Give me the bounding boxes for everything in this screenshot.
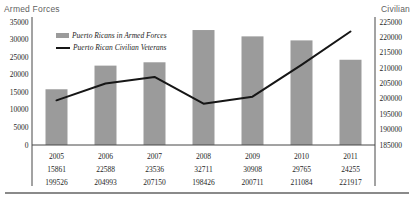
- right-axis-tick: 205000: [380, 79, 403, 88]
- right-axis-tick: 200000: [380, 94, 403, 103]
- category-label: 2009: [245, 152, 260, 161]
- right-axis-tick: 225000: [380, 18, 403, 27]
- line-value-label: 211084: [290, 178, 312, 187]
- right-axis-tick: 190000: [380, 125, 403, 134]
- line-value-label: 221917: [339, 178, 362, 187]
- bottom-divider: [5, 192, 409, 194]
- legend-item-armed-forces: Puerto Ricans in Armed Forces: [56, 31, 167, 40]
- line-value-label: 204993: [94, 178, 117, 187]
- bar-value-label: 15861: [47, 165, 66, 174]
- left-axis-tick: 25000: [10, 53, 29, 62]
- legend-label-civilian-veterans: Puerto Rican Civilian Veterans: [73, 43, 167, 52]
- legend: Puerto Ricans in Armed Forces Puerto Ric…: [56, 31, 167, 52]
- bar-value-label: 23536: [145, 165, 164, 174]
- category-label: 2006: [98, 152, 113, 161]
- line-value-label: 207150: [143, 178, 166, 187]
- left-axis-tick: 5000: [14, 123, 29, 132]
- right-axis-tick: 195000: [380, 110, 403, 119]
- right-axis-tick: 185000: [380, 141, 403, 150]
- category-label: 2005: [49, 152, 64, 161]
- bar-series-swatch-icon: [56, 33, 69, 38]
- bar-value-label: 22588: [96, 165, 115, 174]
- left-axis-tick: 15000: [10, 88, 29, 97]
- chart-svg: 0500010000150002000025000300003500018500…: [0, 0, 413, 198]
- right-axis-tick: 220000: [380, 33, 403, 42]
- left-axis-tick: 30000: [10, 35, 29, 44]
- right-axis-tick: 215000: [380, 48, 403, 57]
- bar-2008: [193, 30, 215, 145]
- left-axis-tick: 10000: [10, 105, 29, 114]
- bar-2007: [144, 62, 166, 145]
- category-label: 2008: [196, 152, 211, 161]
- bar-value-label: 29765: [292, 165, 311, 174]
- line-value-label: 200711: [241, 178, 263, 187]
- left-axis-tick: 35000: [10, 18, 29, 27]
- category-label: 2011: [343, 152, 358, 161]
- left-axis-tick: 0: [25, 141, 29, 150]
- bar-2011: [340, 60, 362, 145]
- chart-page: Armed Forces Civilian 050001000015000200…: [0, 0, 413, 198]
- bar-value-label: 32711: [194, 165, 213, 174]
- bar-2006: [95, 66, 117, 145]
- right-axis-tick: 210000: [380, 64, 403, 73]
- line-value-label: 199526: [45, 178, 68, 187]
- category-label: 2007: [147, 152, 162, 161]
- left-axis-tick: 20000: [10, 70, 29, 79]
- legend-label-armed-forces: Puerto Ricans in Armed Forces: [72, 31, 167, 40]
- legend-item-civilian-veterans: Puerto Rican Civilian Veterans: [56, 43, 167, 52]
- bar-value-label: 24255: [341, 165, 360, 174]
- bar-2010: [291, 40, 313, 145]
- line-series-swatch-icon: [56, 47, 70, 49]
- bar-value-label: 30908: [243, 165, 262, 174]
- category-label: 2010: [294, 152, 309, 161]
- line-value-label: 198426: [192, 178, 215, 187]
